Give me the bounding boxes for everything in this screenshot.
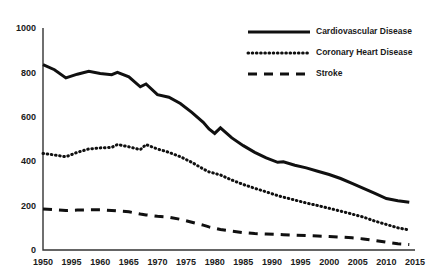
legend-label: Stroke xyxy=(316,68,343,78)
x-axis-tick-label: 2010 xyxy=(376,257,396,267)
y-axis-tick-label: 600 xyxy=(21,112,36,122)
x-axis-tick-label: 1950 xyxy=(33,257,53,267)
chart-container: 10008006004002000 1950199519601965197019… xyxy=(0,0,428,276)
y-axis-tick-label: 1000 xyxy=(16,23,36,33)
y-axis-tick-label: 0 xyxy=(31,245,36,255)
x-axis-tick-label: 1995 xyxy=(291,257,311,267)
x-axis-tick-label: 1965 xyxy=(119,257,139,267)
x-axis-tick-label: 1985 xyxy=(233,257,253,267)
y-axis-tick-label: 200 xyxy=(21,201,36,211)
x-axis-tick-label: 2000 xyxy=(319,257,339,267)
chart-legend: Cardiovascular DiseaseCoronary Heart Dis… xyxy=(248,26,413,78)
series-line-coronary-heart-disease xyxy=(43,145,409,230)
legend-label: Cardiovascular Disease xyxy=(316,26,412,36)
line-chart: 10008006004002000 1950199519601965197019… xyxy=(0,0,428,276)
x-axis-tick-label: 2005 xyxy=(348,257,368,267)
x-axis-tick-label: 1990 xyxy=(262,257,282,267)
x-axis-tick-label: 1975 xyxy=(176,257,196,267)
legend-label: Coronary Heart Disease xyxy=(316,47,413,57)
y-axis-tick-label: 400 xyxy=(21,156,36,166)
x-axis-tick-label: 1960 xyxy=(90,257,110,267)
y-axis-tick-labels: 10008006004002000 xyxy=(16,23,36,255)
x-axis-tick-label: 1970 xyxy=(147,257,167,267)
x-axis-tick-label: 1995 xyxy=(62,257,82,267)
x-axis-tick-label: 1980 xyxy=(205,257,225,267)
x-axis-tick-labels: 1950199519601965197019751980198519901995… xyxy=(33,257,425,267)
x-axis-tick-label: 2015 xyxy=(405,257,425,267)
series-line-cardiovascular-disease xyxy=(43,65,409,203)
data-series-group xyxy=(43,65,409,245)
y-axis-tick-label: 800 xyxy=(21,68,36,78)
